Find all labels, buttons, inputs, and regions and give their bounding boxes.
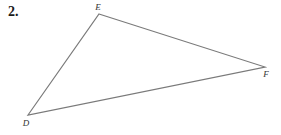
triangle-def bbox=[28, 14, 265, 115]
vertex-label-d: D bbox=[22, 118, 30, 128]
vertex-label-f: F bbox=[262, 69, 269, 79]
vertex-label-e: E bbox=[94, 2, 101, 12]
triangle-diagram: E F D bbox=[0, 0, 281, 135]
